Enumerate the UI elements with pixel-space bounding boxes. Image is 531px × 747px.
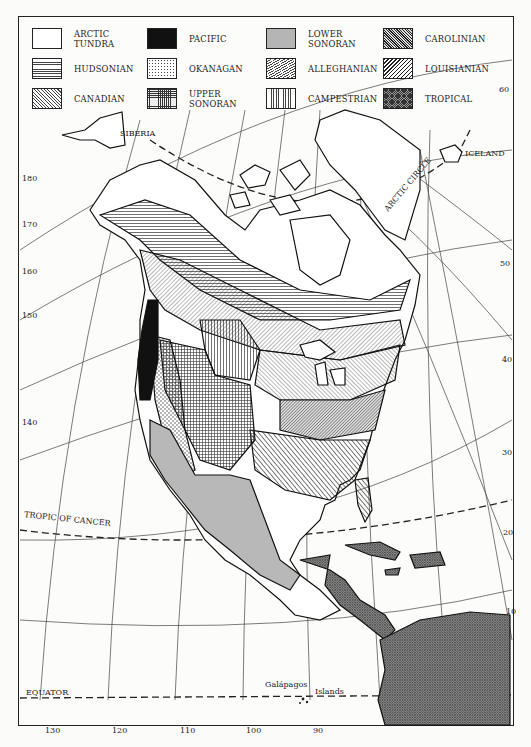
legend-label: CAROLINIAN [425,34,486,44]
tick-bottom-90: 90 [313,726,323,735]
label-galapagos: Galápagos [265,680,307,689]
swatch-hudsonian [32,58,62,79]
swatch-louisianian [383,58,413,79]
legend-label: UPPER SONORAN [189,89,237,109]
swatch-tropical [383,88,413,109]
legend-item-canadian: CANADIAN [32,88,125,109]
legend-item-upper-sonoran: UPPER SONORAN [147,88,237,109]
tick-right-10: 10 [506,607,516,616]
north-america-landmass [62,110,510,725]
legend-label: OKANAGAN [189,64,243,74]
tick-left-180: 180 [22,174,37,183]
legend-item-louisianian: LOUISIANIAN [383,58,489,79]
tick-bottom-100: 100 [246,726,261,735]
legend-item-pacific: PACIFIC [147,28,227,49]
tick-left-160: 160 [22,267,37,276]
tick-bottom-130: 130 [45,726,60,735]
legend-label: LOWER SONORAN [308,29,356,49]
legend-label: LOUISIANIAN [425,64,489,74]
legend-label: ALLEGHANIAN [308,64,378,74]
legend-label: TROPICAL [425,94,472,104]
legend-item-tropical: TROPICAL [383,88,472,109]
label-islands: Islands [315,687,344,696]
swatch-lower-sonoran [266,28,296,49]
legend-item-campestrian: CAMPESTRIAN [266,88,377,109]
tick-left-170: 170 [22,220,37,229]
legend-label: HUDSONIAN [74,64,134,74]
tick-right-40: 40 [502,355,512,364]
swatch-upper-sonoran [147,88,177,109]
tick-bottom-120: 120 [112,726,127,735]
swatch-arctic-tundra [32,28,62,49]
legend-item-alleghanian: ALLEGHANIAN [266,58,378,79]
legend-label: CAMPESTRIAN [308,94,377,104]
tick-left-150: 150 [22,311,37,320]
legend-label: ARCTIC TUNDRA [74,29,114,49]
tick-left-140: 140 [22,418,37,427]
label-equator: EQUATOR [26,688,69,697]
legend-item-lower-sonoran: LOWER SONORAN [266,28,356,49]
label-iceland: ICELAND [465,149,505,158]
life-zones-map: SIBERIA ICELAND ARCTIC CIRCLE TROPIC OF … [0,0,531,747]
legend-item-arctic-tundra: ARCTIC TUNDRA [32,28,114,49]
swatch-alleghanian [266,58,296,79]
swatch-carolinian [383,28,413,49]
tick-right-30: 30 [502,448,512,457]
legend-item-hudsonian: HUDSONIAN [32,58,134,79]
legend: ARCTIC TUNDRA HUDSONIAN CANADIAN PACIFIC… [20,18,512,110]
legend-label: CANADIAN [74,94,125,104]
legend-label: PACIFIC [189,34,227,44]
swatch-campestrian [266,88,296,109]
swatch-okanagan [147,58,177,79]
label-siberia: SIBERIA [120,129,156,138]
swatch-pacific [147,28,177,49]
tick-bottom-110: 110 [180,726,195,735]
legend-item-okanagan: OKANAGAN [147,58,243,79]
swatch-canadian [32,88,62,109]
label-tropic-of-cancer: TROPIC OF CANCER [24,510,112,528]
legend-item-carolinian: CAROLINIAN [383,28,486,49]
tick-right-20: 20 [503,528,513,537]
tick-right-50: 50 [500,259,510,268]
